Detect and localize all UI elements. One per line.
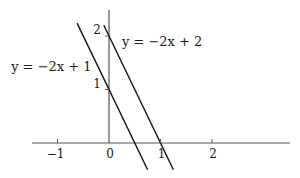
x-tick-label: 1 bbox=[158, 147, 166, 161]
chart: −101212 y = −2x + 1y = −2x + 2 bbox=[0, 0, 300, 178]
x-tick-label: 0 bbox=[106, 147, 114, 161]
line-label-2: y = −2x + 2 bbox=[121, 34, 202, 49]
axes bbox=[32, 10, 290, 143]
line-label-1: y = −2x + 1 bbox=[10, 59, 91, 74]
x-tick-label: 2 bbox=[209, 147, 217, 161]
y-tick-label: 2 bbox=[93, 23, 101, 37]
x-tick-label: −1 bbox=[47, 147, 65, 161]
annotations-group: y = −2x + 1y = −2x + 2 bbox=[10, 34, 202, 74]
y-tick-label: 1 bbox=[93, 77, 101, 91]
